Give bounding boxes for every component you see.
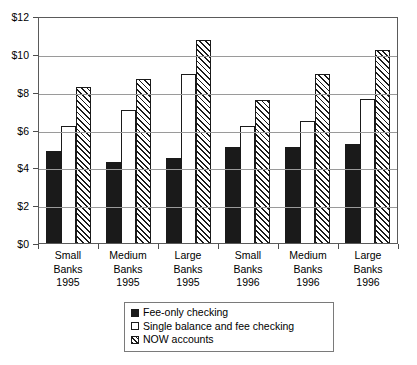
x-axis-label-line: Banks xyxy=(278,263,338,277)
gridline xyxy=(39,56,397,57)
bar xyxy=(255,100,270,243)
legend-label: Fee-only checking xyxy=(143,307,228,318)
gridline xyxy=(39,132,397,133)
plot-area xyxy=(38,17,398,244)
x-axis-label-line: Small xyxy=(38,249,98,263)
legend-item[interactable]: NOW accounts xyxy=(131,333,327,347)
y-axis-tick-label: $0 xyxy=(17,239,29,249)
x-axis-label-line: Large xyxy=(158,249,218,263)
x-axis-category-label: LargeBanks1996 xyxy=(338,249,398,290)
y-axis-tick-label: $6 xyxy=(17,126,29,136)
bar xyxy=(345,144,360,243)
y-axis-tick-label: $10 xyxy=(11,50,29,60)
x-axis-tick-mark xyxy=(398,244,399,249)
x-axis-label-line: Banks xyxy=(218,263,278,277)
y-axis: $0$2$4$6$8$10$12 xyxy=(0,0,38,250)
gridline xyxy=(39,169,397,170)
legend-label: Single balance and fee checking xyxy=(143,321,294,332)
x-axis-labels: SmallBanks1995MediumBanks1995LargeBanks1… xyxy=(38,249,398,290)
bar xyxy=(166,158,181,243)
x-axis-label-line: 1996 xyxy=(338,276,398,290)
x-axis-category-label: SmallBanks1995 xyxy=(38,249,98,290)
legend-item[interactable]: Fee-only checking xyxy=(131,306,327,320)
gridline xyxy=(39,94,397,95)
x-axis-label-line: Large xyxy=(338,249,398,263)
x-axis-category-label: LargeBanks1995 xyxy=(158,249,218,290)
bar xyxy=(76,87,91,243)
bar xyxy=(315,74,330,243)
x-axis-label-line: Banks xyxy=(158,263,218,277)
bar-group xyxy=(39,18,99,243)
x-axis-label-line: 1995 xyxy=(38,276,98,290)
bar xyxy=(181,74,196,243)
y-axis-tick-label: $2 xyxy=(17,201,29,211)
legend-item[interactable]: Single balance and fee checking xyxy=(131,320,327,334)
bar xyxy=(61,126,76,243)
bar xyxy=(300,121,315,243)
x-axis-label-line: Banks xyxy=(38,263,98,277)
bar xyxy=(225,147,240,243)
x-axis-label-line: Banks xyxy=(98,263,158,277)
x-axis-category-label: SmallBanks1996 xyxy=(218,249,278,290)
x-axis-category-label: MediumBanks1995 xyxy=(98,249,158,290)
x-axis-label-line: 1995 xyxy=(158,276,218,290)
chart-legend: Fee-only checkingSingle balance and fee … xyxy=(124,302,334,352)
bar xyxy=(196,40,211,243)
bar xyxy=(106,162,121,243)
bar-group xyxy=(218,18,278,243)
x-axis-label-line: 1996 xyxy=(218,276,278,290)
x-axis-label-line: Medium xyxy=(98,249,158,263)
bar-group xyxy=(158,18,218,243)
x-axis-label-line: Banks xyxy=(338,263,398,277)
bar xyxy=(136,79,151,243)
bar xyxy=(240,126,255,243)
x-axis-label-line: 1995 xyxy=(98,276,158,290)
legend-swatch-icon xyxy=(131,322,139,330)
bar xyxy=(375,50,390,243)
bar-group xyxy=(337,18,397,243)
legend-swatch-icon xyxy=(131,336,139,344)
legend-label: NOW accounts xyxy=(143,334,214,345)
bar xyxy=(121,110,136,243)
bars-layer xyxy=(39,18,397,243)
gridline xyxy=(39,207,397,208)
bar xyxy=(46,151,61,243)
x-axis-category-label: MediumBanks1996 xyxy=(278,249,338,290)
x-axis-label-line: Medium xyxy=(278,249,338,263)
bar-chart: $0$2$4$6$8$10$12 SmallBanks1995MediumBan… xyxy=(0,0,417,365)
y-axis-tick-label: $4 xyxy=(17,163,29,173)
bar xyxy=(360,99,375,243)
bar-group xyxy=(99,18,159,243)
y-axis-tick-label: $12 xyxy=(11,12,29,22)
y-axis-tick-label: $8 xyxy=(17,88,29,98)
x-axis-label-line: 1996 xyxy=(278,276,338,290)
bar-group xyxy=(278,18,338,243)
x-axis-label-line: Small xyxy=(218,249,278,263)
bar xyxy=(285,147,300,243)
legend-swatch-icon xyxy=(131,309,139,317)
